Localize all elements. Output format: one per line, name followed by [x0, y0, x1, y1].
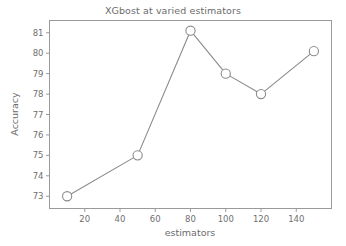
x-tick-label: 60 [150, 214, 161, 224]
x-axis-ticks: 20406080100120140 [79, 209, 304, 224]
data-point-marker [309, 47, 318, 56]
x-tick-label: 80 [185, 214, 196, 224]
x-tick-label: 120 [253, 214, 269, 224]
data-point-marker [221, 69, 230, 78]
y-tick-label: 78 [33, 89, 44, 99]
x-tick-label: 20 [79, 214, 90, 224]
chart-figure: XGbost at varied estimators 204060801001… [0, 0, 346, 246]
series-line [67, 31, 314, 197]
x-tick-label: 140 [288, 214, 304, 224]
y-tick-label: 76 [33, 130, 44, 140]
data-point-marker [186, 26, 195, 35]
x-axis-title: estimators [165, 227, 216, 238]
y-tick-label: 75 [33, 150, 44, 160]
plot-border [50, 21, 332, 209]
y-tick-label: 77 [33, 110, 44, 120]
x-tick-label: 100 [218, 214, 234, 224]
data-point-marker [63, 192, 72, 201]
series-markers [63, 26, 319, 201]
axes-frame [50, 21, 332, 209]
y-axis-ticks: 737475767778798081 [33, 28, 50, 201]
chart-plot-area: 20406080100120140 737475767778798081 est… [0, 0, 346, 246]
x-tick-label: 40 [115, 214, 126, 224]
y-tick-label: 80 [33, 48, 44, 58]
y-axis-title: Accuracy [9, 92, 20, 136]
data-point-marker [133, 151, 142, 160]
y-tick-label: 73 [33, 191, 44, 201]
y-tick-label: 81 [33, 28, 44, 38]
data-point-marker [256, 89, 265, 98]
y-tick-label: 74 [33, 171, 44, 181]
y-tick-label: 79 [33, 69, 44, 79]
data-series-layer [63, 26, 319, 201]
